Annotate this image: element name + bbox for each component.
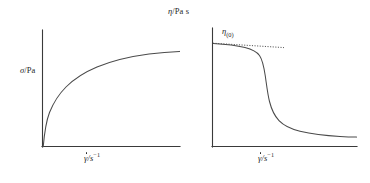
rheology-figure: σ/Pa γ/s−1 η/Pa s γ/s−1 η(0)	[0, 0, 370, 183]
right-y-axis-unit: /Pa s	[172, 6, 189, 16]
left-y-axis-label: σ/Pa	[20, 66, 35, 75]
right-x-axis-symbol: γ	[258, 154, 261, 163]
right-panel-viscosity-curve	[212, 28, 357, 147]
left-x-axis-label: γ/s−1	[84, 152, 100, 162]
left-x-axis-symbol: γ	[84, 154, 87, 163]
zero-shear-viscosity-label: η(0)	[222, 27, 234, 38]
viscosity-curve	[213, 44, 356, 138]
left-x-axis-exponent: −1	[93, 151, 100, 158]
right-y-axis-label: η/Pa s	[168, 7, 189, 16]
zero-shear-viscosity-subscript: (0)	[226, 31, 233, 38]
right-x-axis-label: γ/s−1	[258, 152, 274, 162]
left-panel-flow-curve	[42, 30, 180, 147]
left-y-axis-unit: /Pa	[24, 65, 35, 75]
shear-stress-curve	[43, 51, 179, 146]
right-x-axis-exponent: −1	[267, 151, 274, 158]
figure-canvas	[0, 0, 370, 183]
